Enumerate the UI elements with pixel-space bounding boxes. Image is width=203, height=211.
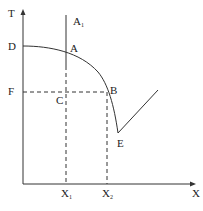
label-x1: X1: [61, 188, 72, 200]
phase-diagram-graphic: [0, 0, 203, 211]
label-x1-sub: 1: [69, 194, 72, 200]
label-a1-sub: 1: [81, 22, 84, 28]
label-b: B: [110, 85, 117, 96]
label-x2-main: X: [102, 187, 110, 199]
label-a1: A1: [73, 16, 84, 28]
line-e-right: [118, 90, 158, 133]
liquidus-curve: [23, 46, 118, 133]
label-e: E: [117, 138, 124, 149]
x-axis-arrow-icon: [190, 182, 196, 187]
label-d: D: [8, 41, 16, 52]
label-x1-main: X: [61, 187, 69, 199]
label-t: T: [8, 8, 15, 19]
label-x2-sub: 2: [110, 194, 113, 200]
label-a: A: [70, 43, 78, 54]
label-c: C: [56, 95, 63, 106]
label-a1-main: A: [73, 15, 81, 27]
label-x2: X2: [102, 188, 113, 200]
label-x: X: [192, 188, 200, 199]
label-f: F: [8, 86, 14, 97]
y-axis-arrow-icon: [21, 9, 26, 15]
